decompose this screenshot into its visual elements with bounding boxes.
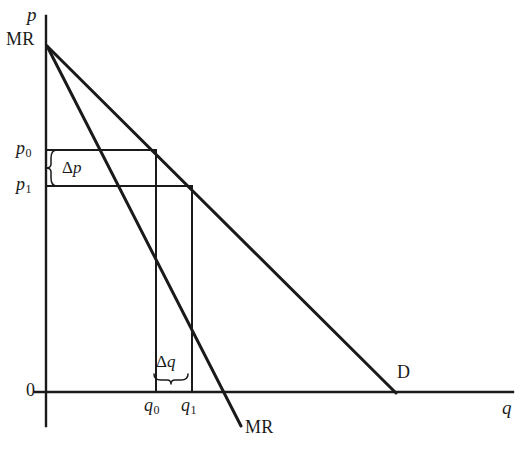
origin-label: 0: [26, 381, 35, 399]
demand-marginal-revenue-figure: p q MR MR D p0 p1 0 q0 q1 Δp Δq: [0, 0, 524, 450]
mr-intercept-label: MR: [6, 30, 35, 48]
demand-curve: [47, 46, 396, 393]
delta-p-brace: [46, 150, 57, 186]
q0-subscript: 0: [154, 403, 160, 417]
delta-p-symbol: Δ: [62, 158, 73, 177]
p1-tick-label: p1: [16, 175, 32, 195]
p-axis-label: p: [27, 5, 37, 24]
delta-q-variable: q: [167, 352, 176, 371]
q1-base: q: [181, 395, 190, 415]
q-axis-label: q: [502, 398, 512, 417]
q0-base: q: [144, 395, 153, 415]
axes: [35, 16, 513, 426]
delta-q-brace: [154, 374, 188, 384]
q1-tick-label: q1: [181, 396, 197, 416]
demand-curve-label: D: [397, 363, 410, 381]
marginal-revenue-curve: [47, 46, 241, 426]
delta-p-variable: p: [73, 158, 82, 177]
delta-q-symbol: Δ: [156, 352, 167, 371]
mr-curve-label: MR: [245, 418, 274, 436]
q1-subscript: 1: [191, 403, 197, 417]
delta-p-label: Δp: [62, 159, 81, 176]
p0-tick-label: p0: [16, 139, 32, 159]
figure-canvas: [0, 0, 524, 450]
p0-subscript: 0: [26, 146, 32, 160]
p1-subscript: 1: [26, 182, 32, 196]
p0-base: p: [16, 138, 25, 158]
delta-q-label: Δq: [156, 353, 175, 370]
p1-base: p: [16, 174, 25, 194]
q0-tick-label: q0: [144, 396, 160, 416]
